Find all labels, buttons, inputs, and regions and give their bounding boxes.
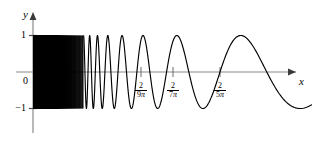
figure-container: y x 1 −1 0 2 9π 2 7π 2 5π <box>0 0 312 141</box>
plot-canvas <box>0 0 312 141</box>
x-tick-label-2-over-5pi: 2 5π <box>214 82 226 100</box>
x-axis-arrowhead <box>288 69 296 76</box>
y-tick-label-positive-one: 1 <box>12 30 26 40</box>
x-axis-label: x <box>299 76 304 87</box>
x-tick-label-2-over-9pi: 2 9π <box>135 82 147 100</box>
x-tick-label-2-over-7pi: 2 7π <box>167 82 179 100</box>
y-axis-label: y <box>23 9 28 20</box>
origin-label: 0 <box>18 76 28 86</box>
x-tick-1-denominator: 9π <box>135 91 147 99</box>
x-tick-2-denominator: 7π <box>167 91 179 99</box>
x-tick-3-denominator: 5π <box>214 91 226 99</box>
y-axis-arrowhead <box>30 12 37 20</box>
y-tick-label-negative-one: −1 <box>9 103 26 113</box>
